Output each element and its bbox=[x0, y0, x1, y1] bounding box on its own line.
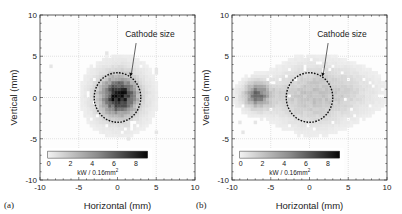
colorbar bbox=[48, 151, 148, 158]
y-axis-label: Vertical (mm) bbox=[200, 70, 211, 126]
colorbar-tick: 6 bbox=[112, 160, 116, 167]
x-tick-label: -5 bbox=[267, 183, 275, 192]
colorbar-label: kW / 0.16mm2 bbox=[269, 168, 310, 176]
y-tick-label: 0 bbox=[33, 94, 38, 103]
colorbar-label: kW / 0.16mm2 bbox=[77, 168, 118, 176]
x-tick-label: 5 bbox=[154, 183, 159, 192]
colorbar-tick: 6 bbox=[304, 160, 308, 167]
colorbar-tick: 2 bbox=[69, 160, 73, 167]
y-tick-label: -5 bbox=[30, 135, 38, 144]
colorbar-tick: 2 bbox=[261, 160, 265, 167]
heatmap-chart-b: Cathode size02468kW / 0.16mm2-10-5051010… bbox=[192, 0, 402, 214]
y-tick-label: 10 bbox=[28, 11, 37, 20]
y-tick-label: -10 bbox=[217, 176, 229, 185]
y-tick-label: 10 bbox=[220, 11, 229, 20]
annotation-label: Cathode size bbox=[125, 29, 175, 39]
x-axis-label: Horizontal (mm) bbox=[276, 200, 344, 211]
panel-letter: (a) bbox=[4, 200, 14, 210]
colorbar-tick: 0 bbox=[47, 160, 51, 167]
y-tick-label: 0 bbox=[225, 94, 230, 103]
colorbar-tick: 0 bbox=[239, 160, 243, 167]
panel-a: Cathode size02468kW / 0.16mm2-10-5051010… bbox=[0, 0, 201, 214]
heatmap-chart-a: Cathode size02468kW / 0.16mm2-10-5051010… bbox=[0, 0, 201, 214]
y-axis-label: Vertical (mm) bbox=[8, 70, 19, 126]
y-tick-label: 5 bbox=[33, 52, 38, 61]
x-axis-label: Horizontal (mm) bbox=[84, 200, 152, 211]
colorbar-tick: 4 bbox=[282, 160, 286, 167]
x-tick-label: -5 bbox=[75, 183, 83, 192]
y-tick-label: -10 bbox=[25, 176, 37, 185]
panel-b: Cathode size02468kW / 0.16mm2-10-5051010… bbox=[192, 0, 393, 214]
panel-letter: (b) bbox=[196, 200, 207, 210]
colorbar-tick: 4 bbox=[90, 160, 94, 167]
x-tick-label: 0 bbox=[307, 183, 312, 192]
x-tick-label: 10 bbox=[383, 183, 392, 192]
colorbar-tick: 8 bbox=[134, 160, 138, 167]
y-tick-label: -5 bbox=[222, 135, 230, 144]
annotation-label: Cathode size bbox=[317, 29, 367, 39]
y-tick-label: 5 bbox=[225, 52, 230, 61]
x-tick-label: 5 bbox=[346, 183, 351, 192]
colorbar-tick: 8 bbox=[326, 160, 330, 167]
x-tick-label: 0 bbox=[115, 183, 120, 192]
colorbar bbox=[240, 151, 340, 158]
